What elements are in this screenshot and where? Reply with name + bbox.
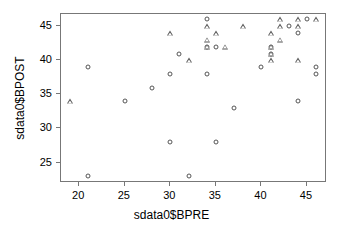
triangle-marker-icon — [313, 17, 319, 22]
data-point-triangle — [167, 31, 173, 36]
circle-marker-icon — [268, 51, 273, 56]
circle-marker-icon — [204, 71, 209, 76]
circle-marker-icon — [295, 99, 300, 104]
data-point-circle — [150, 85, 155, 90]
circle-marker-icon — [204, 17, 209, 22]
data-point-circle — [268, 51, 273, 56]
data-point-circle — [177, 51, 182, 56]
circle-marker-icon — [232, 106, 237, 111]
triangle-marker-icon — [204, 44, 210, 49]
circle-marker-icon — [268, 44, 273, 49]
triangle-marker-icon — [268, 44, 274, 49]
data-point-triangle — [313, 17, 319, 22]
y-tick-mark — [56, 127, 60, 128]
data-point-triangle — [295, 17, 301, 22]
data-point-triangle — [277, 37, 283, 42]
data-point-circle — [232, 106, 237, 111]
triangle-marker-icon — [295, 24, 301, 29]
x-tick-mark — [260, 182, 261, 186]
data-point-circle — [168, 140, 173, 145]
data-point-triangle — [222, 44, 228, 49]
circle-marker-icon — [122, 99, 127, 104]
triangle-marker-icon — [186, 58, 192, 63]
triangle-marker-icon — [277, 24, 283, 29]
data-point-circle — [304, 17, 309, 22]
circle-marker-icon — [177, 51, 182, 56]
data-point-circle — [286, 24, 291, 29]
data-point-circle — [204, 44, 209, 49]
data-point-triangle — [268, 31, 274, 36]
y-tick-mark — [56, 59, 60, 60]
x-tick-label: 45 — [300, 189, 312, 201]
triangle-marker-icon — [277, 17, 283, 22]
triangle-marker-icon — [295, 58, 301, 63]
y-tick-mark — [56, 162, 60, 163]
data-point-triangle — [295, 24, 301, 29]
triangle-marker-icon — [268, 58, 274, 63]
triangle-marker-icon — [277, 37, 283, 42]
plot-frame — [60, 13, 326, 182]
data-point-circle — [259, 65, 264, 70]
data-point-circle — [268, 44, 273, 49]
data-point-circle — [86, 174, 91, 179]
circle-marker-icon — [186, 174, 191, 179]
x-axis-label: sdata0$BPRE — [0, 208, 343, 222]
circle-marker-icon — [259, 65, 264, 70]
triangle-marker-icon — [213, 31, 219, 36]
circle-marker-icon — [204, 44, 209, 49]
data-point-circle — [204, 71, 209, 76]
triangle-marker-icon — [167, 31, 173, 36]
data-point-triangle — [240, 24, 246, 29]
y-tick-label: 35 — [28, 87, 52, 99]
data-point-triangle — [295, 58, 301, 63]
triangle-marker-icon — [204, 37, 210, 42]
y-tick-label: 40 — [28, 53, 52, 65]
scatter-plot-figure: sdata0$BPOST 202530354045 2530354045 sda… — [0, 0, 343, 235]
triangle-marker-icon — [67, 99, 73, 104]
data-point-circle — [122, 99, 127, 104]
triangle-marker-icon — [295, 17, 301, 22]
y-tick-mark — [56, 93, 60, 94]
data-point-circle — [86, 65, 91, 70]
data-point-circle — [213, 140, 218, 145]
x-tick-mark — [124, 182, 125, 186]
data-point-triangle — [204, 44, 210, 49]
circle-marker-icon — [213, 44, 218, 49]
y-tick-label: 30 — [28, 121, 52, 133]
data-point-triangle — [213, 31, 219, 36]
data-point-triangle — [268, 44, 274, 49]
circle-marker-icon — [168, 140, 173, 145]
circle-marker-icon — [295, 31, 300, 36]
triangle-marker-icon — [204, 24, 210, 29]
data-point-triangle — [186, 58, 192, 63]
data-point-triangle — [268, 58, 274, 63]
data-point-circle — [186, 174, 191, 179]
data-point-circle — [295, 99, 300, 104]
data-point-triangle — [204, 24, 210, 29]
triangle-marker-icon — [240, 24, 246, 29]
data-point-triangle — [268, 51, 274, 56]
data-point-circle — [295, 31, 300, 36]
circle-marker-icon — [314, 65, 319, 70]
x-tick-label: 30 — [163, 189, 175, 201]
triangle-marker-icon — [268, 51, 274, 56]
x-tick-label: 20 — [72, 189, 84, 201]
circle-marker-icon — [213, 140, 218, 145]
circle-marker-icon — [168, 71, 173, 76]
triangle-marker-icon — [268, 31, 274, 36]
x-tick-label: 25 — [118, 189, 130, 201]
y-tick-label: 45 — [28, 19, 52, 31]
x-tick-mark — [215, 182, 216, 186]
data-point-circle — [204, 17, 209, 22]
data-point-circle — [213, 44, 218, 49]
circle-marker-icon — [150, 85, 155, 90]
x-tick-mark — [78, 182, 79, 186]
y-tick-mark — [56, 25, 60, 26]
data-point-circle — [314, 71, 319, 76]
x-tick-label: 40 — [254, 189, 266, 201]
data-point-circle — [168, 71, 173, 76]
y-axis-label: sdata0$BPOST — [13, 56, 27, 139]
circle-marker-icon — [304, 17, 309, 22]
triangle-marker-icon — [222, 44, 228, 49]
data-point-triangle — [277, 17, 283, 22]
